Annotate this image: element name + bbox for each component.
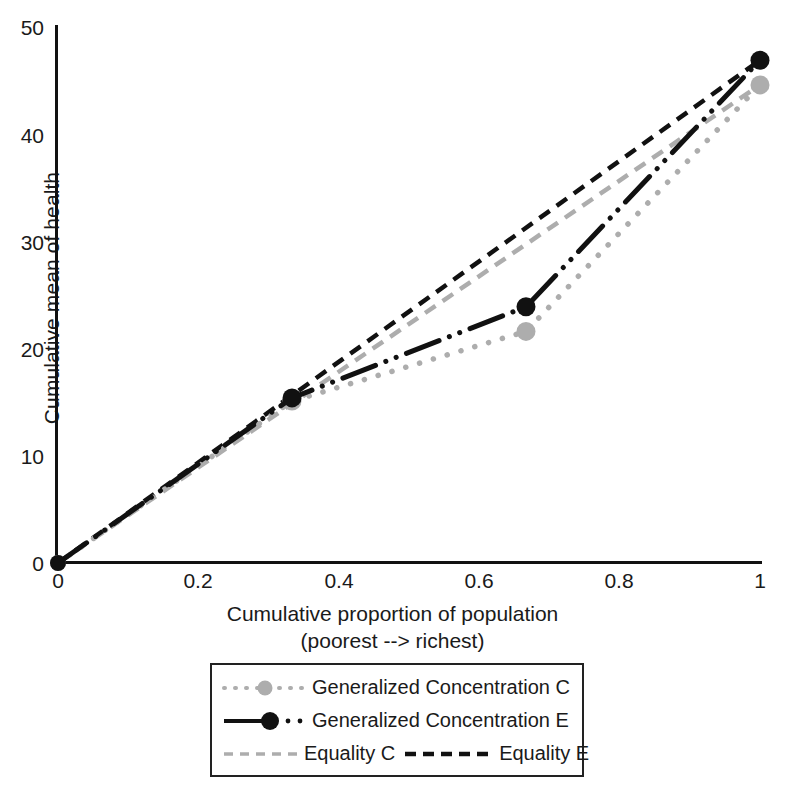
legend-row-equality: Equality C Equality E <box>222 737 572 770</box>
data-point <box>751 51 770 70</box>
legend-label-equality-e: Equality E <box>495 742 589 765</box>
x-axis-label-line1: Cumulative proportion of population <box>227 602 559 625</box>
legend: Generalized Concentration C Generalized … <box>210 663 584 777</box>
x-axis-label-line2: (poorest --> richest) <box>0 627 785 654</box>
legend-swatch-equality-c <box>222 741 300 767</box>
legend-row-concentration-e: Generalized Concentration E <box>222 704 572 737</box>
x-axis-label: Cumulative proportion of population (poo… <box>0 600 785 654</box>
legend-row-concentration-c: Generalized Concentration C <box>222 671 572 704</box>
data-point <box>517 322 536 341</box>
legend-label-equality-c: Equality C <box>300 742 395 765</box>
data-point <box>517 297 536 316</box>
data-point <box>50 555 66 571</box>
data-point <box>751 75 770 94</box>
legend-label-concentration-e: Generalized Concentration E <box>308 709 569 732</box>
chart-figure: Cumulative mean of health 0 10 20 30 40 … <box>0 0 785 797</box>
legend-swatch-equality-e <box>403 741 495 767</box>
legend-swatch-concentration-c <box>222 675 308 701</box>
legend-swatch-concentration-e <box>222 708 308 734</box>
data-point <box>283 388 302 407</box>
legend-label-concentration-c: Generalized Concentration C <box>308 676 570 699</box>
